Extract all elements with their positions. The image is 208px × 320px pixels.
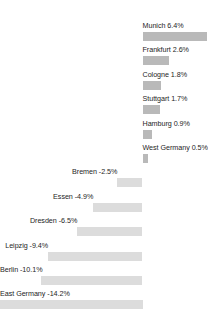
bar-frankfurt	[143, 56, 169, 65]
bar-west-germany	[143, 154, 148, 163]
bar-label: Berlin -10.1%	[0, 265, 41, 274]
bar-stuttgart	[143, 105, 160, 114]
bar-label: Frankfurt 2.6%	[143, 45, 189, 54]
bar-chart: Munich 6.4%Frankfurt 2.6%Cologne 1.8%Stu…	[0, 0, 208, 320]
bar-bremen	[117, 178, 142, 187]
bar-leipzig	[48, 252, 142, 261]
bar-label: Munich 6.4%	[143, 21, 184, 30]
bar-label: Leipzig -9.4%	[0, 241, 48, 250]
bar-dresden	[77, 227, 142, 236]
bar-label: Hamburg 0.9%	[143, 119, 190, 128]
bar-label: Cologne 1.8%	[143, 70, 188, 79]
bar-berlin	[41, 276, 142, 285]
bar-label: Stuttgart 1.7%	[143, 94, 188, 103]
bar-essen	[93, 203, 142, 212]
bar-label: Dresden -6.5%	[0, 216, 77, 225]
bar-east-germany	[0, 300, 143, 309]
bar-munich	[143, 32, 207, 41]
bar-label: Essen -4.9%	[0, 192, 93, 201]
bar-hamburg	[143, 130, 152, 139]
bar-cologne	[143, 81, 161, 90]
bar-label: West Germany 0.5%	[143, 143, 208, 152]
bar-label: Bremen -2.5%	[0, 167, 117, 176]
